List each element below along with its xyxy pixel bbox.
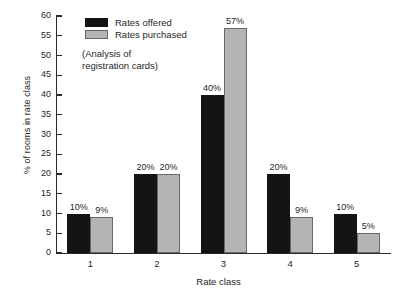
y-axis-tick-label: 25 bbox=[29, 148, 51, 158]
legend-label-offered: Rates offered bbox=[115, 17, 172, 28]
legend-note: (Analysis of registration cards) bbox=[82, 48, 158, 71]
y-axis-tick-label: 0 bbox=[29, 247, 51, 257]
y-axis-tick-label: 30 bbox=[29, 129, 51, 139]
bar-value-label: 20% bbox=[151, 162, 185, 172]
x-axis-tick-label: 3 bbox=[204, 258, 244, 269]
legend-swatch-icon-offered bbox=[85, 18, 108, 27]
bar-value-label: 9% bbox=[285, 205, 319, 215]
bar-offered-class-5 bbox=[334, 214, 357, 254]
legend-item-rates-purchased: Rates purchased bbox=[85, 29, 187, 40]
bar-chart: % of rooms in rate class 051015202530354… bbox=[0, 0, 411, 295]
bar-purchased-class-3 bbox=[224, 28, 247, 253]
bar-value-label: 10% bbox=[328, 202, 362, 212]
y-axis-tick-label: 5 bbox=[29, 227, 51, 237]
legend-note-line-2: registration cards) bbox=[82, 60, 158, 72]
x-axis-tick-label: 5 bbox=[337, 258, 377, 269]
x-axis-tick-label: 4 bbox=[270, 258, 310, 269]
y-axis-tick-label: 55 bbox=[29, 30, 51, 40]
legend-note-line-1: (Analysis of bbox=[82, 48, 158, 60]
bar-offered-class-1 bbox=[67, 214, 90, 254]
bar-value-label: 20% bbox=[262, 162, 296, 172]
y-axis-tick-label: 45 bbox=[29, 69, 51, 79]
bar-purchased-class-4 bbox=[290, 217, 313, 253]
y-axis-tick-label: 10 bbox=[29, 208, 51, 218]
legend: Rates offered Rates purchased bbox=[85, 17, 187, 41]
bar-offered-class-2 bbox=[134, 174, 157, 253]
legend-item-rates-offered: Rates offered bbox=[85, 17, 187, 28]
y-axis-tick-label: 60 bbox=[29, 10, 51, 20]
x-axis-tick-label: 1 bbox=[70, 258, 110, 269]
bar-value-label: 57% bbox=[218, 16, 252, 26]
bar-purchased-class-5 bbox=[357, 233, 380, 253]
bar-purchased-class-1 bbox=[90, 217, 113, 253]
bar-offered-class-3 bbox=[201, 95, 224, 253]
legend-swatch-icon-purchased bbox=[85, 30, 108, 39]
bar-purchased-class-2 bbox=[157, 174, 180, 253]
y-axis-tick-label: 40 bbox=[29, 89, 51, 99]
y-axis-tick-label: 20 bbox=[29, 168, 51, 178]
bar-value-label: 5% bbox=[351, 221, 385, 231]
x-axis-tick-label: 2 bbox=[137, 258, 177, 269]
bar-value-label: 9% bbox=[85, 205, 119, 215]
y-axis-tick-label: 50 bbox=[29, 50, 51, 60]
legend-label-purchased: Rates purchased bbox=[115, 29, 187, 40]
y-axis-tick-label: 15 bbox=[29, 188, 51, 198]
x-axis-title: Rate class bbox=[46, 276, 391, 287]
y-axis-tick-label: 35 bbox=[29, 109, 51, 119]
